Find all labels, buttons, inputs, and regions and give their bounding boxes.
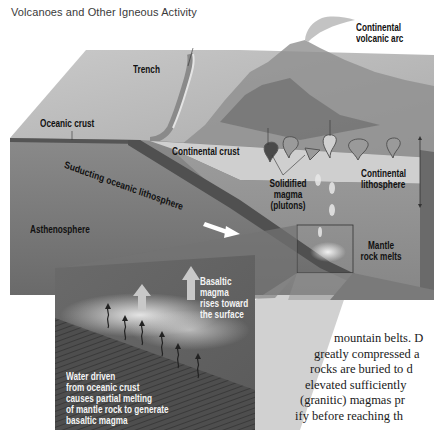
body-text: mountain belts. D greatly compressed a r…: [322, 331, 434, 424]
label-continental-volcanic-arc: Continental volcanic arc: [356, 22, 403, 44]
label-continental-lithosphere: Continental lithosphere: [361, 168, 406, 190]
volcano-plume: [305, 17, 355, 42]
label-trench: Trench: [133, 64, 160, 75]
body-line: rocks are buried to d: [310, 362, 434, 378]
label-asthenosphere: Asthenosphere: [30, 224, 90, 235]
label-basaltic-magma-rises: Basaltic magma rises toward the surface: [200, 276, 248, 320]
label-continental-crust: Continental crust: [172, 146, 239, 157]
body-line: elevated sufficiently: [305, 378, 434, 394]
body-line: (granitic) magmas pr: [300, 393, 434, 409]
label-solidified-magma: Solidified magma (plutons): [263, 178, 312, 211]
body-line: mountain belts. D: [322, 331, 434, 347]
label-oceanic-crust: Oceanic crust: [40, 118, 94, 129]
label-water-driven: Water driven from oceanic crust causes p…: [66, 371, 169, 426]
body-line: greatly compressed a: [314, 347, 434, 363]
label-mantle-rock-melts: Mantle rock melts: [361, 240, 402, 262]
body-line: ify before reaching th: [295, 409, 434, 425]
